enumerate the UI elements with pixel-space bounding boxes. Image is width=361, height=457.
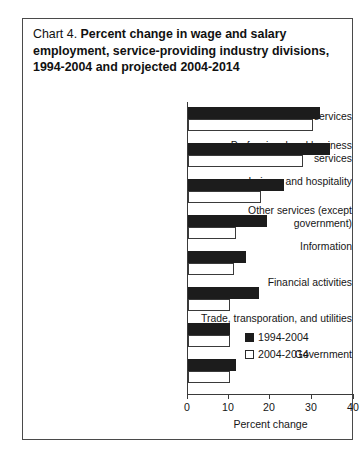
- bar-education-2004-2014: [188, 119, 313, 131]
- legend-label-2004-2014: 2004-2014: [258, 348, 309, 360]
- bar-leisure-1994-2004: [188, 179, 284, 191]
- bar-group-financial: [188, 287, 354, 314]
- x-tick-label-30: 30: [296, 401, 326, 413]
- x-tick-20: [269, 394, 270, 399]
- bar-group-government: [188, 359, 354, 386]
- x-tick-label-40: 40: [338, 401, 361, 413]
- legend-entry-1994-2004: 1994-2004: [245, 329, 345, 345]
- bar-information-1994-2004: [188, 251, 246, 263]
- chart-legend: 1994-2004 2004-2014: [245, 329, 345, 363]
- bar-financial-1994-2004: [188, 287, 259, 299]
- x-tick-30: [311, 394, 312, 399]
- bar-government-1994-2004: [188, 359, 236, 371]
- bar-information-2004-2014: [188, 263, 234, 275]
- chart-title-main: Percent change in wage and salary employ…: [33, 27, 329, 74]
- bar-group-leisure: [188, 179, 354, 206]
- bar-leisure-2004-2014: [188, 191, 261, 203]
- bar-trade-1994-2004: [188, 323, 230, 335]
- x-tick-label-20: 20: [254, 401, 284, 413]
- bar-education-1994-2004: [188, 107, 320, 119]
- legend-swatch-filled-icon: [245, 333, 254, 342]
- x-axis-title: Percent change: [187, 418, 354, 430]
- x-tick-0: [187, 394, 188, 399]
- x-tick-label-0: 0: [172, 401, 202, 413]
- x-tick-10: [228, 394, 229, 399]
- bar-group-information: [188, 251, 354, 278]
- bar-group-professional: [188, 143, 354, 170]
- page-title: Chart 4. Percent change in wage and sala…: [33, 26, 348, 76]
- x-tick-40: [353, 394, 354, 399]
- value-axis-line: [187, 394, 354, 395]
- bar-other-services-2004-2014: [188, 227, 236, 239]
- bar-financial-2004-2014: [188, 299, 230, 311]
- bar-group-other-services: [188, 215, 354, 242]
- legend-label-1994-2004: 1994-2004: [258, 331, 309, 343]
- bar-trade-2004-2014: [188, 335, 230, 347]
- x-tick-label-10: 10: [213, 401, 243, 413]
- bar-professional-2004-2014: [188, 155, 303, 167]
- bar-professional-1994-2004: [188, 143, 330, 155]
- bar-government-2004-2014: [188, 371, 230, 383]
- bar-other-services-1994-2004: [188, 215, 267, 227]
- chart-frame: Chart 4. Percent change in wage and sala…: [22, 18, 353, 440]
- bar-group-education: [188, 107, 354, 134]
- legend-swatch-open-icon: [245, 350, 254, 359]
- legend-entry-2004-2014: 2004-2014: [245, 346, 345, 362]
- chart-title-prefix: Chart 4.: [33, 27, 77, 41]
